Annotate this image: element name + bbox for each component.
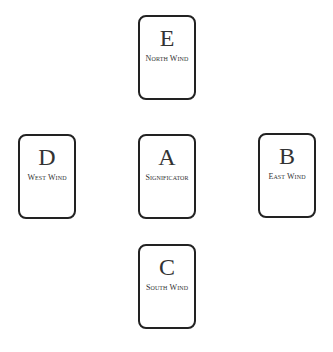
card-letter: B — [260, 143, 314, 169]
card-label: South Wind — [140, 283, 194, 292]
card-letter: A — [140, 144, 194, 170]
card-south: C South Wind — [138, 244, 196, 329]
card-north: E North Wind — [138, 15, 196, 100]
card-letter: C — [140, 254, 194, 280]
card-label: West Wind — [20, 173, 74, 182]
card-label: North Wind — [140, 54, 194, 63]
card-label: Significator — [140, 173, 194, 182]
card-west: D West Wind — [18, 134, 76, 219]
card-east: B East Wind — [258, 133, 316, 218]
card-letter: D — [20, 144, 74, 170]
card-significator: A Significator — [138, 134, 196, 219]
card-label: East Wind — [260, 172, 314, 181]
card-letter: E — [140, 25, 194, 51]
